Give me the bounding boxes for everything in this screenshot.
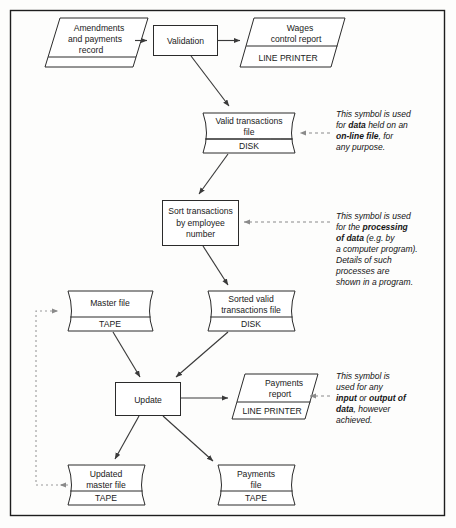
svg-text:processes are: processes are [335, 266, 390, 276]
node-payments-report-footer: LINE PRINTER [242, 406, 301, 416]
node-sorted-valid-footer: DISK [241, 319, 261, 329]
node-master-file-label: Master file [90, 298, 130, 308]
node-valid-trans-footer: DISK [239, 141, 259, 151]
process-note-l5-s0: processes are [335, 266, 390, 276]
svg-text:achieved.: achieved. [336, 415, 372, 425]
io-note-l2-s0: input [336, 393, 358, 403]
node-sort-trans-line-0: Sort transactions [168, 206, 232, 216]
node-master-file-footer: TAPE [99, 319, 121, 329]
node-wages-report-line-1: control report [271, 34, 322, 44]
svg-text:This symbol is used: This symbol is used [336, 211, 411, 221]
edge-validation-valid-trans [191, 56, 229, 106]
disk-note-l1-s1: data [348, 120, 366, 130]
annotation-disk-note: This symbol is used for data held on an … [336, 109, 411, 152]
node-update-label: Update [134, 395, 162, 405]
node-payments-file-line-1: file [251, 480, 262, 490]
svg-text:Details of such: Details of such [336, 255, 392, 265]
node-payments-file[interactable]: Payments file TAPE [218, 465, 295, 505]
node-wages-report-line-0: Wages [287, 23, 313, 33]
svg-text:used for any: used for any [336, 382, 384, 392]
annotation-io-note: This symbol is used for any input or out… [336, 371, 407, 425]
node-valid-trans[interactable]: Valid transactions file DISK [203, 113, 295, 153]
edge-sort-trans-sorted-valid [203, 246, 228, 285]
node-payments-file-line-0: Payments [237, 469, 275, 479]
edge-sorted-valid-update [176, 332, 228, 377]
process-note-l6-s0: shown in a program. [336, 277, 413, 287]
node-payments-report-line-1: report [269, 389, 292, 399]
node-update[interactable]: Update [116, 383, 181, 416]
node-sorted-valid-line-1: transactions file [221, 305, 281, 315]
io-note-l2-s1: or [357, 393, 369, 403]
svg-text:input or output of: input or output of [336, 393, 407, 403]
svg-text:a computer program).: a computer program). [336, 244, 418, 254]
node-amendments[interactable]: Amendments and payments record [45, 18, 148, 67]
edge-updated-master-feedback [36, 311, 68, 485]
disk-note-l0-s0: This symbol is used [336, 109, 411, 119]
disk-note-l1-s0: for [336, 120, 348, 130]
svg-text:shown in a program.: shown in a program. [336, 277, 413, 287]
node-updated-master-line-0: Updated [90, 469, 123, 479]
svg-text:This symbol is: This symbol is [336, 371, 391, 381]
node-amendments-line-1: and payments [68, 34, 122, 44]
flowchart-canvas: Amendments and payments record Validatio… [0, 0, 456, 528]
node-amendments-line-2: record [79, 45, 104, 55]
edge-update-payments-file [163, 416, 213, 461]
node-payments-report[interactable]: Payments report LINE PRINTER [232, 374, 318, 419]
annotation-process-note: This symbol is used for the processing o… [335, 211, 418, 287]
svg-text:data, however: data, however [336, 404, 392, 414]
node-master-file[interactable]: Master file TAPE [68, 291, 153, 331]
process-note-l0-s0: This symbol is used [336, 211, 411, 221]
svg-text:of data (e.g. by: of data (e.g. by [336, 233, 395, 243]
node-payments-report-line-0: Payments [265, 378, 303, 388]
disk-note-l1-s2: held on an [366, 120, 408, 130]
svg-text:on-line file, for: on-line file, for [336, 131, 394, 141]
process-note-l2-s0: of data [336, 233, 364, 243]
io-note-l2-s2: output of [369, 393, 407, 403]
svg-text:any purpose.: any purpose. [336, 142, 385, 152]
disk-note-l2-s0: on-line file [336, 131, 379, 141]
node-validation-label: Validation [167, 36, 204, 46]
io-note-l0-s0: This symbol is [336, 371, 391, 381]
process-note-l2-s1: (e.g. by [364, 233, 395, 243]
svg-text:for data held on an: for data held on an [336, 120, 408, 130]
edge-update-updated-master [115, 416, 139, 459]
io-note-l3-s1: , however [353, 404, 391, 414]
node-valid-trans-line-0: Valid transactions [215, 116, 282, 126]
io-note-l3-s0: data [336, 404, 354, 414]
flowchart-svg: Amendments and payments record Validatio… [0, 0, 456, 528]
svg-text:This symbol is used: This symbol is used [336, 109, 411, 119]
io-note-l1-s0: used for any [336, 382, 384, 392]
node-updated-master-footer: TAPE [95, 493, 117, 503]
disk-note-l3-s0: any purpose. [336, 142, 385, 152]
disk-note-l2-s1: , for [379, 131, 395, 141]
process-note-l1-s0: for the [336, 222, 362, 232]
node-sort-trans[interactable]: Sort transactions by employee number [163, 201, 239, 246]
node-valid-trans-line-1: file [244, 127, 255, 137]
node-sorted-valid[interactable]: Sorted valid transactions file DISK [208, 291, 295, 331]
node-validation[interactable]: Validation [154, 26, 218, 56]
process-note-l3-s0: a computer program). [336, 244, 418, 254]
process-note-l1-s1: processing [361, 222, 408, 232]
io-note-l4-s0: achieved. [336, 415, 372, 425]
node-updated-master[interactable]: Updated master file TAPE [68, 465, 145, 505]
node-sort-trans-line-2: number [186, 229, 215, 239]
process-note-l4-s0: Details of such [336, 255, 392, 265]
node-updated-master-line-1: master file [86, 480, 126, 490]
svg-text:for the processing: for the processing [336, 222, 409, 232]
edge-valid-trans-sort-trans [199, 154, 228, 194]
node-sort-trans-line-1: by employee [176, 218, 225, 228]
node-amendments-line-0: Amendments [74, 23, 125, 33]
node-wages-report-footer: LINE PRINTER [258, 53, 317, 63]
edge-master-file-update [113, 332, 140, 377]
node-payments-file-footer: TAPE [245, 493, 267, 503]
node-wages-report[interactable]: Wages control report LINE PRINTER [240, 18, 345, 67]
node-sorted-valid-line-0: Sorted valid [228, 294, 274, 304]
